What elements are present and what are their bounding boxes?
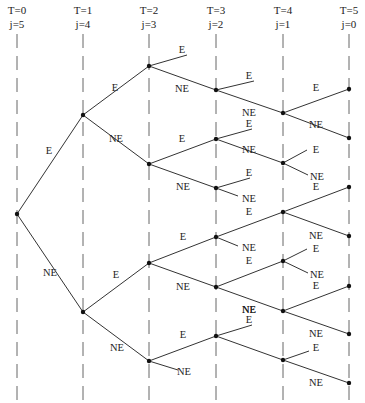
column-j-label: j=1 <box>275 18 291 30</box>
tree-edge <box>283 249 307 261</box>
tree-edge <box>149 361 178 370</box>
tree-node <box>281 259 285 263</box>
column-time-label: T=2 <box>140 4 158 16</box>
tree-node <box>81 113 85 117</box>
edge-label: E <box>113 269 119 280</box>
edge-label: E <box>180 329 186 340</box>
tree-node <box>81 310 85 314</box>
edge-label: NE <box>309 377 323 388</box>
edge-label: E <box>313 243 319 254</box>
edge-labels: ENEENEENEENEENEENEENEENEENEENEENEENEENEE… <box>43 44 324 388</box>
column-time-label: T=1 <box>74 4 92 16</box>
column-time-label: T=4 <box>274 4 293 16</box>
edge-label: NE <box>177 366 191 377</box>
edge-label: E <box>246 167 252 178</box>
tree-node <box>147 359 151 363</box>
edge-label: NE <box>309 230 323 241</box>
edge-label: NE <box>175 83 189 94</box>
edge-label: E <box>112 82 118 93</box>
column-j-label: j=2 <box>208 18 224 30</box>
column-j-label: j=0 <box>341 18 357 30</box>
tree-node <box>347 381 351 385</box>
tree-node <box>214 235 218 239</box>
column-j-label: j=4 <box>75 18 91 30</box>
edge-label: NE <box>309 119 323 130</box>
edge-label: E <box>246 70 252 81</box>
tree-node <box>147 162 151 166</box>
tree-edge <box>17 214 83 312</box>
edge-label: E <box>246 206 252 217</box>
column-headers: T=0j=5T=1j=4T=2j=3T=3j=2T=4j=1T=5j=0 <box>8 4 359 30</box>
column-j-label: j=3 <box>141 18 157 30</box>
tree-node <box>347 234 351 238</box>
tree-node <box>147 261 151 265</box>
tree-edge <box>216 81 254 90</box>
edge-label: NE <box>176 281 190 292</box>
decision-tree-diagram: T=0j=5T=1j=4T=2j=3T=3j=2T=4j=1T=5j=0 ENE… <box>0 0 365 403</box>
tree-node <box>281 161 285 165</box>
tree-edge <box>216 129 252 139</box>
edge-label: NE <box>242 107 256 118</box>
edge-label: E <box>246 118 252 129</box>
edge-label: NE <box>310 269 324 280</box>
tree-node <box>214 137 218 141</box>
tree-node <box>214 285 218 289</box>
edge-label: NE <box>242 304 256 315</box>
edge-label: NE <box>242 193 256 204</box>
edge-label: E <box>46 145 52 156</box>
tree-node <box>281 309 285 313</box>
edge-label: NE <box>43 267 57 278</box>
tree-node <box>347 284 351 288</box>
edge-label: E <box>313 181 319 192</box>
column-time-label: T=0 <box>8 4 27 16</box>
tree-edge <box>216 178 250 188</box>
tree-node <box>281 358 285 362</box>
tree-edge <box>283 163 308 175</box>
edge-label: E <box>246 314 252 325</box>
edge-label: NE <box>309 328 323 339</box>
tree-node <box>347 332 351 336</box>
column-time-label: T=3 <box>207 4 226 16</box>
edge-label: NE <box>109 133 123 144</box>
edge-label: NE <box>242 144 256 155</box>
tree-node <box>214 186 218 190</box>
edge-label: E <box>313 82 319 93</box>
edge-label: NE <box>110 342 124 353</box>
column-j-label: j=5 <box>9 18 25 30</box>
edge-label: NE <box>176 181 190 192</box>
tree-edge <box>83 312 149 361</box>
tree-edge <box>283 150 307 163</box>
tree-node <box>281 111 285 115</box>
tree-node <box>214 88 218 92</box>
tree-node <box>347 136 351 140</box>
tree-edge <box>216 336 283 360</box>
edge-label: E <box>180 231 186 242</box>
tree-edge <box>283 351 309 360</box>
edge-label: E <box>179 133 185 144</box>
edge-label: E <box>313 144 319 155</box>
tree-edge <box>216 237 238 246</box>
tree-edge <box>149 55 187 66</box>
tree-node <box>214 334 218 338</box>
column-time-label: T=5 <box>340 4 359 16</box>
tree-node <box>347 87 351 91</box>
tree-edge <box>216 188 238 196</box>
edge-label: NE <box>242 242 256 253</box>
tree-edge <box>283 261 308 273</box>
edge-label: E <box>179 44 185 55</box>
tree-edge <box>17 115 83 214</box>
tree-node <box>281 210 285 214</box>
tree-node <box>347 185 351 189</box>
tree-edge <box>216 325 252 336</box>
edge-label: E <box>313 342 319 353</box>
edge-label: E <box>313 280 319 291</box>
tree-node <box>147 64 151 68</box>
tree-node <box>15 212 19 216</box>
edge-label: E <box>246 255 252 266</box>
